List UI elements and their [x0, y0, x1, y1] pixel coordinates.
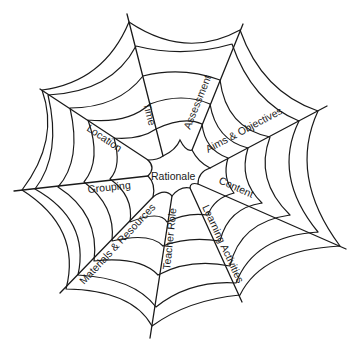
spoke-label-content: Content — [217, 174, 256, 200]
curriculum-spider-web-diagram: Rationale Time Assessment Aims & Objecti… — [0, 0, 356, 349]
spoke-label-teacher-role: Teacher Role — [160, 207, 178, 270]
spoke-label-grouping: Grouping — [87, 179, 131, 195]
center-label-rationale: Rationale — [151, 170, 196, 182]
spoke-label-time: Time — [141, 101, 159, 126]
spoke-label-materials-resources: Materials & Resources — [77, 201, 158, 286]
web-labels: Rationale Time Assessment Aims & Objecti… — [77, 73, 284, 286]
spoke-learning-activities — [190, 188, 242, 302]
